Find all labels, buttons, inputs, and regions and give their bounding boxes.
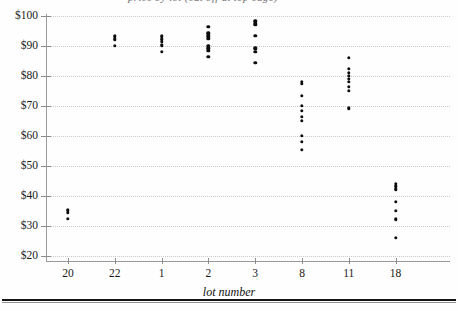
data-point: [253, 34, 256, 37]
y-tick: [41, 256, 51, 257]
gridline: [47, 226, 450, 227]
gridline: [47, 256, 450, 257]
data-point: [394, 218, 397, 221]
data-point: [300, 109, 303, 112]
data-point: [113, 44, 116, 47]
y-tick: [41, 106, 51, 107]
x-axis-tick-label: 18: [376, 268, 416, 280]
gridline: [47, 196, 450, 197]
x-tick: [349, 258, 350, 264]
y-axis-tick-label: $30: [0, 220, 38, 232]
x-axis-tick-label: 22: [95, 268, 135, 280]
y-axis-tick-label: $80: [0, 70, 38, 82]
gridline: [47, 136, 450, 137]
data-point: [394, 236, 397, 239]
data-point: [160, 50, 163, 53]
page-bottom-rule: [2, 299, 456, 301]
y-tick: [41, 136, 51, 137]
x-tick: [302, 258, 303, 264]
y-tick: [41, 166, 51, 167]
data-point: [300, 134, 303, 137]
data-point: [66, 211, 69, 214]
data-point: [300, 82, 303, 85]
scatter-plot: $100$90$80$70$60$50$40$30$20 20221238111…: [0, 0, 458, 311]
x-axis-tick-label: 1: [142, 268, 182, 280]
y-axis-tick-label: $90: [0, 40, 38, 52]
data-point: [300, 140, 303, 143]
x-axis-tick-label: 3: [235, 268, 275, 280]
data-point: [347, 67, 350, 70]
y-axis-tick-label: $50: [0, 160, 38, 172]
x-axis-tick-label: 20: [48, 268, 88, 280]
x-axis-tick-label: 8: [282, 268, 322, 280]
data-point: [347, 107, 350, 110]
data-point: [160, 44, 163, 47]
data-point: [394, 200, 397, 203]
y-tick: [41, 46, 51, 47]
gridline: [47, 76, 450, 77]
x-tick: [396, 258, 397, 264]
y-axis-line: [46, 14, 47, 262]
data-point: [253, 50, 256, 53]
data-point: [300, 148, 303, 151]
y-axis-tick-label: $20: [0, 250, 38, 262]
x-tick: [162, 258, 163, 264]
gridline: [47, 46, 450, 47]
data-point: [113, 38, 116, 41]
data-point: [394, 209, 397, 212]
data-point: [66, 217, 69, 220]
y-tick: [41, 226, 51, 227]
data-point: [253, 23, 256, 26]
data-point: [207, 37, 210, 40]
gridline: [47, 166, 450, 167]
x-axis-tick-label: 2: [188, 268, 228, 280]
data-point: [347, 80, 350, 83]
gridline: [47, 106, 450, 107]
data-point: [300, 104, 303, 107]
data-point: [347, 56, 350, 59]
x-tick: [208, 258, 209, 264]
y-axis-tick-label: $40: [0, 190, 38, 202]
page-bottom-rule-shadow: [2, 302, 456, 303]
x-tick: [255, 258, 256, 264]
data-point: [207, 55, 210, 58]
y-axis-tick-label: $70: [0, 100, 38, 112]
x-axis-line: [46, 261, 450, 262]
data-point: [300, 115, 303, 118]
data-point: [347, 89, 350, 92]
data-point: [347, 85, 350, 88]
x-axis-title: lot number: [0, 285, 458, 300]
data-point: [394, 188, 397, 191]
y-tick: [41, 76, 51, 77]
x-tick: [68, 258, 69, 264]
y-tick: [41, 16, 51, 17]
data-point: [207, 25, 210, 28]
data-point: [253, 61, 256, 64]
y-tick: [41, 196, 51, 197]
data-point: [300, 119, 303, 122]
y-axis-tick-label: $100: [0, 10, 38, 22]
y-axis-tick-label: $60: [0, 130, 38, 142]
x-tick: [115, 258, 116, 264]
gridline: [47, 16, 450, 17]
x-axis-tick-label: 11: [329, 268, 369, 280]
data-point: [300, 94, 303, 97]
data-point: [207, 49, 210, 52]
